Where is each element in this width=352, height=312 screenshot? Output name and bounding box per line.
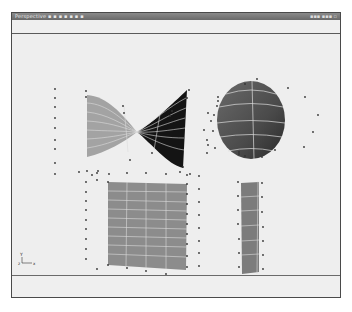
3d-viewport[interactable]: Y z x bbox=[12, 34, 340, 277]
plane-grid[interactable] bbox=[108, 182, 187, 270]
viewport-titlebar[interactable]: Perspective ▪ ▪ ▪ ▪ ▪ ▪ ▪ ▪▪▪ ▪▪▪ ▫ bbox=[12, 13, 340, 20]
viewport-controls[interactable]: ▪▪▪ ▪▪▪ ▫ bbox=[310, 13, 337, 20]
scene-canvas[interactable]: Y z x bbox=[12, 34, 342, 277]
strip[interactable] bbox=[241, 181, 259, 274]
sphere[interactable] bbox=[217, 81, 285, 159]
axis-z-label: z bbox=[18, 261, 20, 266]
axis-x-label: x bbox=[33, 261, 36, 266]
viewport-toolbar[interactable] bbox=[12, 20, 340, 34]
viewport-footer bbox=[12, 275, 340, 297]
viewport-title: Perspective ▪ ▪ ▪ ▪ ▪ ▪ ▪ bbox=[15, 13, 84, 20]
viewport-window: Perspective ▪ ▪ ▪ ▪ ▪ ▪ ▪ ▪▪▪ ▪▪▪ ▫ bbox=[11, 12, 341, 298]
axis-indicator bbox=[22, 257, 32, 263]
twisted-surface[interactable] bbox=[87, 90, 187, 168]
axis-y-label: Y bbox=[19, 252, 23, 257]
